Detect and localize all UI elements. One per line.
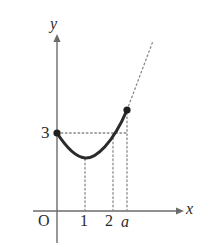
graph-canvas	[0, 0, 212, 247]
x-tick-label-2: 2	[105, 213, 113, 229]
y-tick-label-3: 3	[41, 124, 50, 141]
origin-label: O	[38, 213, 50, 229]
point-y-intercept-dot	[53, 129, 60, 136]
point-at-a-dot	[123, 106, 130, 113]
y-axis-arrow-icon	[53, 34, 60, 42]
figure-container: y x O 1 2 a 3	[0, 0, 212, 247]
x-tick-label-1: 1	[80, 213, 88, 229]
x-axis-arrow-icon	[176, 207, 184, 214]
tangent-line-at-a	[127, 41, 153, 110]
curve-path	[57, 110, 127, 158]
guide-lines	[57, 110, 127, 211]
y-axis-label: y	[50, 16, 57, 32]
x-tick-label-a: a	[121, 214, 129, 230]
x-axis-label: x	[186, 201, 193, 217]
